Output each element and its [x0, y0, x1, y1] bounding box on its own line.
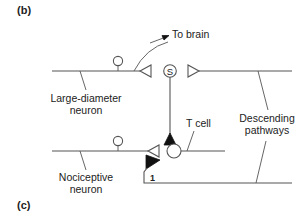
excitatory-synapse-left-icon — [140, 65, 151, 77]
s-cell-label: S — [167, 66, 173, 77]
nociceptive-leader-line — [80, 151, 86, 170]
nociceptive-neuron — [52, 136, 225, 158]
descending-synapse-icon — [146, 155, 160, 169]
to-brain-arrowhead-icon — [162, 36, 169, 41]
nociceptive-synapse-icon — [148, 145, 159, 157]
t-cell-leader-line — [187, 131, 194, 151]
panel-label-b: (b) — [17, 4, 31, 16]
nociceptive-label-line2: neuron — [70, 183, 103, 195]
t-cell — [167, 144, 181, 158]
panel-label-c: (c) — [17, 199, 31, 211]
gate-control-diagram: (b) (c) S To brain Large-diameter neuron… — [0, 0, 308, 217]
nociceptive-cell-body — [113, 136, 122, 145]
large-neuron-label-line2: neuron — [70, 104, 103, 116]
large-neuron-cell-body — [113, 56, 122, 65]
descending-label-line1: Descending — [239, 112, 295, 124]
large-neuron-label-line1: Large-diameter — [50, 92, 122, 104]
inhibitory-synapse-icon — [164, 133, 176, 145]
to-brain-label: To brain — [172, 28, 210, 40]
excitatory-synapse-right-icon — [188, 65, 199, 77]
nociceptive-label-line1: Nociceptive — [59, 171, 113, 183]
descending-label-line2: pathways — [245, 124, 289, 136]
synapse-number-label: 1 — [150, 173, 155, 183]
descending-leader-bottom — [256, 141, 266, 183]
large-neuron-leader-line — [80, 71, 86, 90]
descending-pathway-line — [144, 168, 292, 183]
t-cell-label: T cell — [186, 117, 211, 129]
descending-leader-top — [258, 71, 268, 110]
large-diameter-neuron: S — [52, 56, 292, 77]
